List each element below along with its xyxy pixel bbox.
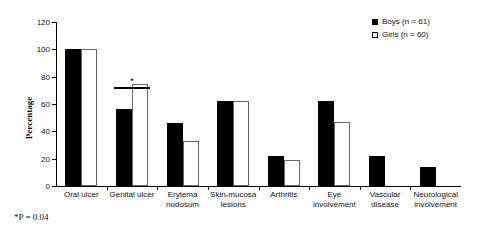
bar-boys <box>65 49 81 186</box>
y-axis-tick-label: 40 <box>41 127 50 136</box>
bar-girls <box>81 49 97 186</box>
y-axis-tick-label: 100 <box>37 45 50 54</box>
x-axis-category-label: Eyeinvolvement <box>309 190 360 210</box>
significance-asterisk: * <box>114 77 150 86</box>
significance-bracket-line <box>114 87 150 89</box>
x-axis-category-label: Oral ulcer <box>56 190 107 200</box>
x-axis-category-label: Arthritis <box>259 190 310 200</box>
y-axis-tick-label: 0 <box>46 182 50 191</box>
plot-area: 020406080100120* <box>56 22 461 186</box>
bar-boys <box>116 109 132 186</box>
bar-chart-figure: Percentage Boys (n = 61) Girls (n = 60) … <box>0 0 477 236</box>
y-axis-tick-label: 60 <box>41 100 50 109</box>
significance-marker: * <box>114 77 150 89</box>
y-axis-title: Percentage <box>24 97 34 139</box>
x-axis-category-label: Neurologicalinvolvement <box>410 190 461 210</box>
bar-boys <box>268 156 284 186</box>
x-axis-category-label: Vasculardisease <box>360 190 411 210</box>
x-axis-category-label: Genital ulcer <box>107 190 158 200</box>
bar-boys <box>420 167 436 186</box>
bar-boys <box>369 156 385 186</box>
bar-group <box>65 22 97 186</box>
bar-girls <box>284 160 300 186</box>
y-axis-tick-label: 120 <box>37 18 50 27</box>
bar-boys <box>167 123 183 186</box>
y-axis-tick-label: 20 <box>41 154 50 163</box>
bar-boys <box>318 101 334 186</box>
bar-group <box>217 22 249 186</box>
bar-girls <box>132 84 148 187</box>
bar-girls <box>183 141 199 186</box>
bar-group <box>420 22 452 186</box>
x-axis-category-label: Erytemanodosum <box>157 190 208 210</box>
x-axis-category-label: Skin-mucosalesions <box>208 190 259 210</box>
bar-group <box>318 22 350 186</box>
x-axis-category-labels: Oral ulcerGenital ulcerErytemanodosumSki… <box>56 190 461 226</box>
bar-girls <box>334 122 350 186</box>
chart-footnote: *P = 0.04 <box>14 212 49 222</box>
bar-boys <box>217 101 233 186</box>
bar-girls <box>233 101 249 186</box>
y-axis-tick-label: 80 <box>41 72 50 81</box>
bar-group <box>167 22 199 186</box>
bar-group <box>369 22 401 186</box>
bar-group <box>268 22 300 186</box>
bar-group <box>116 22 148 186</box>
